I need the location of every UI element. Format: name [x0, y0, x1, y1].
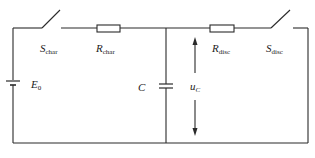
label-s-disc: Sdisc	[266, 42, 283, 56]
label-c: C	[138, 81, 146, 93]
circuit-diagram: Schar Rchar Rdisc Sdisc E0 C uC	[0, 0, 315, 158]
resistor-charge-icon	[97, 25, 120, 32]
switch-charge-icon	[42, 10, 60, 28]
label-r-char: Rchar	[95, 42, 115, 56]
switch-discharge-icon	[271, 10, 290, 28]
capacitor-icon	[159, 84, 173, 88]
battery-icon	[6, 81, 20, 85]
label-uc: uC	[190, 80, 201, 94]
label-s-char: Schar	[40, 42, 58, 56]
label-e0: E0	[30, 78, 42, 92]
label-r-disc: Rdisc	[211, 42, 230, 56]
resistor-discharge-icon	[210, 25, 234, 32]
